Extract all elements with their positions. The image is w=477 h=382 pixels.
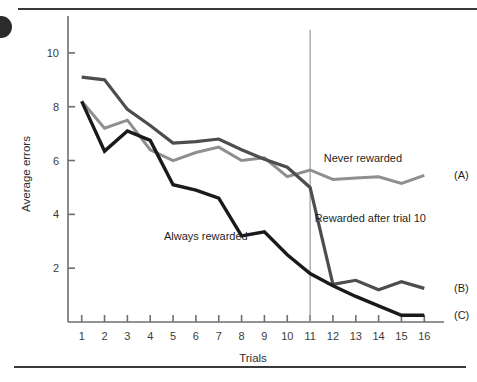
series-tag-b: (B) <box>454 282 469 294</box>
x-axis-tick-label: 1 <box>79 330 85 342</box>
axes-group <box>68 16 444 322</box>
x-axis-tick-label: 10 <box>281 330 293 342</box>
annotation-group: Never rewardedRewarded after trial 10Alw… <box>164 152 426 242</box>
series-line-2 <box>82 77 425 290</box>
y-axis-tick-label: 4 <box>53 208 59 220</box>
x-axis-tick-label: 8 <box>239 330 245 342</box>
x-axis-tick-label: 3 <box>124 330 130 342</box>
series-group: (A)(B)(C) <box>82 77 470 321</box>
tick-label-group: 24681012345678910111213141516 <box>47 47 431 342</box>
y-axis-tick-label: 6 <box>53 155 59 167</box>
x-axis-tick-label: 14 <box>372 330 384 342</box>
x-axis-tick-label: 9 <box>261 330 267 342</box>
series-line-3 <box>82 101 425 315</box>
x-axis-tick-label: 7 <box>216 330 222 342</box>
annotation-rewarded-after-trial-10: Rewarded after trial 10 <box>315 212 426 224</box>
y-axis-tick-label: 10 <box>47 47 59 59</box>
x-axis-tick-label: 13 <box>350 330 362 342</box>
y-axis-tick-label: 2 <box>53 262 59 274</box>
x-axis-tick-label: 5 <box>170 330 176 342</box>
x-axis-tick-label: 12 <box>327 330 339 342</box>
line-chart: (A)(B)(C) 24681012345678910111213141516 … <box>0 0 477 382</box>
x-axis-tick-label: 15 <box>395 330 407 342</box>
axis-title-group: TrialsAverage errors <box>20 136 267 364</box>
y-axis-tick-label: 8 <box>53 101 59 113</box>
annotation-never-rewarded: Never rewarded <box>324 152 402 164</box>
figure-root: (A)(B)(C) 24681012345678910111213141516 … <box>0 0 477 382</box>
series-tag-a: (A) <box>454 169 469 181</box>
x-axis-tick-label: 16 <box>418 330 430 342</box>
x-axis-tick-label: 2 <box>101 330 107 342</box>
y-axis-title: Average errors <box>20 136 32 212</box>
x-axis-tick-label: 4 <box>147 330 153 342</box>
x-axis-tick-label: 11 <box>304 330 315 342</box>
x-axis-tick-label: 6 <box>193 330 199 342</box>
x-axis-title: Trials <box>239 352 267 364</box>
series-tag-c: (C) <box>454 309 469 321</box>
annotation-always-rewarded: Always rewarded <box>164 230 248 242</box>
